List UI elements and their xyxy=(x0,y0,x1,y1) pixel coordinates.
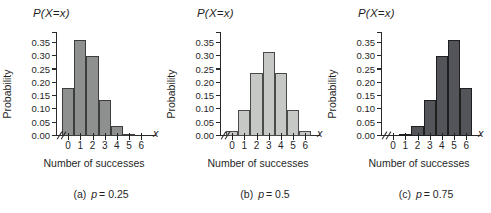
y-tick-labels: 0.000.050.100.150.200.250.300.35 xyxy=(20,32,52,136)
chart-title: P(X=x) xyxy=(33,7,70,19)
x-tick-label: 6 xyxy=(464,140,470,152)
y-tick xyxy=(377,135,381,136)
x-tick xyxy=(117,133,118,140)
binomial-distributions-figure: P(X=x)Probability0.000.050.100.150.200.2… xyxy=(0,0,491,213)
plot-area xyxy=(220,32,320,136)
x-axis-title: Number of successes xyxy=(192,157,324,169)
y-tick xyxy=(216,135,220,136)
y-axis-label: Probability xyxy=(165,69,177,118)
y-tick xyxy=(52,68,56,69)
panel-caption: (a)p= 0.25 xyxy=(35,188,167,200)
y-tick xyxy=(377,55,381,56)
y-tick-label: 0.05 xyxy=(357,118,376,128)
y-tick-label: 0.00 xyxy=(357,131,376,141)
y-tick-label: 0.30 xyxy=(357,51,376,61)
caption-prefix: (b) xyxy=(240,188,253,200)
caption-value: = 0.25 xyxy=(99,188,129,200)
chart-title: P(X=x) xyxy=(197,7,234,19)
bar-x4 xyxy=(436,56,448,136)
x-tick-label: 3 xyxy=(102,140,108,152)
y-axis-label: Probability xyxy=(1,69,13,118)
y-tick xyxy=(52,135,56,136)
x-tick xyxy=(269,133,270,140)
bar-x2 xyxy=(86,56,98,136)
x-tick xyxy=(418,133,419,140)
y-tick xyxy=(216,68,220,69)
y-tick-label: 0.20 xyxy=(32,78,51,88)
y-tick xyxy=(216,42,220,43)
x-axis-title: Number of successes xyxy=(28,157,160,169)
y-tick xyxy=(377,42,381,43)
chart-title: P(X=x) xyxy=(358,7,395,19)
y-tick-label: 0.25 xyxy=(196,65,215,75)
x-tick xyxy=(466,133,467,140)
y-tick-label: 0.00 xyxy=(196,131,215,141)
y-tick xyxy=(52,82,56,83)
axis-break-icon xyxy=(221,131,230,140)
y-tick-label: 0.30 xyxy=(32,51,51,61)
bar-x3 xyxy=(263,52,275,136)
y-tick-label: 0.35 xyxy=(357,38,376,48)
x-tick xyxy=(430,133,431,140)
bar-x0 xyxy=(62,88,74,136)
y-tick-label: 0.15 xyxy=(32,91,51,101)
y-tick-labels: 0.000.050.100.150.200.250.300.35 xyxy=(345,32,377,136)
bar-x3 xyxy=(424,100,436,136)
y-tick-label: 0.25 xyxy=(32,65,51,75)
x-tick xyxy=(257,133,258,140)
x-tick xyxy=(105,133,106,140)
x-tick-label: 3 xyxy=(266,140,272,152)
caption-variable: p xyxy=(91,188,97,200)
x-tick-label: 6 xyxy=(139,140,145,152)
y-axis-line xyxy=(56,32,57,136)
y-tick xyxy=(216,108,220,109)
y-axis-line xyxy=(381,32,382,136)
panel-caption: (b)p= 0.5 xyxy=(199,188,331,200)
bar-x6 xyxy=(460,88,472,136)
axis-break-icon xyxy=(382,131,391,140)
axis-break-icon xyxy=(57,131,66,140)
y-tick-top xyxy=(52,32,56,33)
x-tick-label: 5 xyxy=(126,140,132,152)
x-tick-label: 5 xyxy=(451,140,457,152)
y-tick xyxy=(377,108,381,109)
x-tick xyxy=(141,133,142,140)
x-axis-title: Number of successes xyxy=(353,157,485,169)
caption-variable: p xyxy=(416,188,422,200)
y-tick-label: 0.10 xyxy=(32,104,51,114)
y-tick-label: 0.10 xyxy=(196,104,215,114)
x-tick xyxy=(244,133,245,140)
x-axis-letter: x xyxy=(478,127,484,139)
caption-variable: p xyxy=(258,188,264,200)
y-axis-label-wrap: Probability xyxy=(0,38,14,150)
x-tick-label: 0 xyxy=(65,140,71,152)
x-tick xyxy=(80,133,81,140)
y-tick-label: 0.05 xyxy=(196,118,215,128)
x-tick-label: 1 xyxy=(78,140,84,152)
x-tick-label: 0 xyxy=(229,140,235,152)
y-tick-top xyxy=(216,32,220,33)
y-tick xyxy=(216,122,220,123)
y-axis-line xyxy=(220,32,221,136)
x-tick-label: 0 xyxy=(390,140,396,152)
y-tick-label: 0.15 xyxy=(196,91,215,101)
x-tick-label: 2 xyxy=(415,140,421,152)
x-tick-label: 2 xyxy=(254,140,260,152)
bar-x4 xyxy=(275,73,287,136)
panel-caption: (c)p= 0.75 xyxy=(360,188,491,200)
y-axis-label-wrap: Probability xyxy=(325,38,339,150)
y-tick-top xyxy=(377,32,381,33)
x-tick xyxy=(93,133,94,140)
x-tick xyxy=(454,133,455,140)
x-axis-letter: x xyxy=(153,127,159,139)
y-axis-label: Probability xyxy=(326,69,338,118)
y-tick xyxy=(52,122,56,123)
y-axis-label-wrap: Probability xyxy=(164,38,178,150)
x-tick-label: 2 xyxy=(90,140,96,152)
bar-x1 xyxy=(74,40,86,136)
x-tick-label: 4 xyxy=(278,140,284,152)
y-tick-label: 0.25 xyxy=(357,65,376,75)
x-tick-label: 4 xyxy=(439,140,445,152)
y-tick-label: 0.30 xyxy=(196,51,215,61)
y-tick xyxy=(377,82,381,83)
